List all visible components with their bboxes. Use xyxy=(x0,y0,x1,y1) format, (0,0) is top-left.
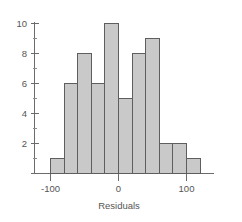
y-tick-label-4: 4 xyxy=(22,108,27,119)
x-tick-label-minus100: -100 xyxy=(41,183,60,194)
histogram-bar xyxy=(105,24,119,174)
histogram-bar xyxy=(132,54,146,174)
y-tick-label-2: 2 xyxy=(22,138,27,149)
histogram-bar xyxy=(159,144,173,174)
histogram-bar xyxy=(119,99,133,174)
histogram-bar xyxy=(173,144,187,174)
y-tick-label-8: 8 xyxy=(22,48,27,59)
y-tick-label-6: 6 xyxy=(22,78,27,89)
chart-canvas: 10 8 6 4 2 -100 0 100 Residuals xyxy=(0,0,242,222)
histogram-bar xyxy=(64,84,78,174)
histogram-bar xyxy=(91,84,105,174)
histogram-bar xyxy=(78,54,92,174)
x-axis-title: Residuals xyxy=(98,200,140,211)
histogram-chart: 10 8 6 4 2 -100 0 100 Residuals xyxy=(0,0,242,222)
histogram-bar xyxy=(187,159,201,174)
x-tick-label-100: 100 xyxy=(179,183,195,194)
y-tick-label-10: 10 xyxy=(16,18,27,29)
histogram-bar xyxy=(146,39,160,174)
x-tick-label-0: 0 xyxy=(116,183,121,194)
histogram-bar xyxy=(51,159,65,174)
